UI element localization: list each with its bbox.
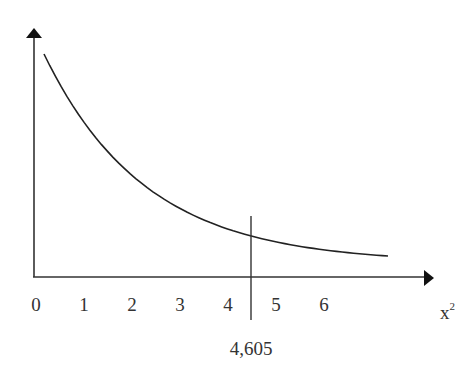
x-tick-label: 6 — [319, 294, 329, 315]
critical-value-label: 4,605 — [230, 338, 273, 359]
x-axis-label: x2 — [440, 300, 455, 323]
y-axis-arrow-icon — [26, 28, 42, 38]
chart: 0123456 x2 4,605 — [0, 0, 474, 378]
y-axis — [26, 28, 42, 277]
x-axis-arrow-icon — [424, 270, 434, 286]
x-axis — [33, 270, 434, 286]
x-tick-label: 3 — [175, 294, 185, 315]
x-tick-labels: 0123456 — [31, 294, 329, 315]
x-tick-label: 4 — [223, 294, 233, 315]
x-tick-label: 5 — [271, 294, 281, 315]
x-tick-label: 0 — [31, 294, 41, 315]
x-tick-label: 1 — [79, 294, 89, 315]
x-tick-label: 2 — [127, 294, 137, 315]
density-curve — [44, 54, 388, 256]
